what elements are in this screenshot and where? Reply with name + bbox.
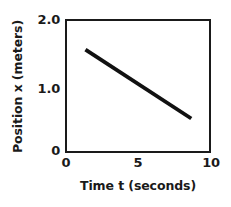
data-series-line: [85, 50, 191, 119]
x-axis-tick-label-5: 5: [118, 156, 158, 169]
x-axis-tick-label-10: 10: [191, 156, 231, 169]
plot-frame: [65, 19, 211, 153]
y-axis-title: Position x (meters): [10, 7, 25, 167]
x-axis-title: Time t (seconds): [55, 178, 221, 193]
x-axis-tick-label-0: 0: [46, 156, 86, 169]
plot-area: [67, 21, 209, 151]
chart-figure: 2.0 1.0 0 0 5 10 Time t (seconds) Positi…: [0, 0, 231, 207]
